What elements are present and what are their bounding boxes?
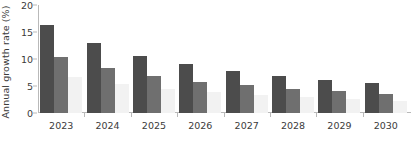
bar xyxy=(161,89,175,113)
x-tick-mark xyxy=(131,113,132,117)
y-tick-label: 20 xyxy=(21,0,33,11)
bar-group xyxy=(84,5,130,113)
bar xyxy=(133,56,147,113)
x-tick-mark xyxy=(316,113,317,117)
bar-group xyxy=(363,5,409,113)
bar xyxy=(300,97,314,113)
bar-group xyxy=(131,5,177,113)
bar xyxy=(207,92,221,113)
bar xyxy=(286,89,300,113)
x-tick-mark xyxy=(224,113,225,117)
bar xyxy=(115,84,129,113)
y-tick-mark xyxy=(33,32,37,33)
bar-group xyxy=(177,5,223,113)
bar-group xyxy=(270,5,316,113)
bar xyxy=(240,85,254,113)
x-tick-mark xyxy=(84,113,85,117)
bar xyxy=(318,80,332,113)
bar-groups xyxy=(38,5,409,113)
bar-chart: Annual growth rate (%) 05101520 20232024… xyxy=(0,0,413,146)
bar xyxy=(346,99,360,113)
plot-area: 05101520 xyxy=(38,5,409,113)
x-tick-mark xyxy=(270,113,271,117)
bar xyxy=(87,43,101,113)
y-tick-mark xyxy=(33,59,37,60)
x-tick-label: 2029 xyxy=(316,119,362,139)
bar-group xyxy=(316,5,362,113)
y-tick-label: 15 xyxy=(21,27,33,38)
bar xyxy=(272,76,286,113)
bar xyxy=(365,83,379,113)
x-tick-label: 2027 xyxy=(224,119,270,139)
bar xyxy=(332,91,346,113)
x-axis-labels: 20232024202520262027202820292030 xyxy=(38,119,409,139)
bar-group xyxy=(38,5,84,113)
y-axis-title: Annual growth rate (%) xyxy=(0,2,14,122)
bar xyxy=(179,64,193,113)
y-tick-mark xyxy=(33,86,37,87)
bar xyxy=(147,76,161,113)
x-tick-label: 2028 xyxy=(270,119,316,139)
bar xyxy=(226,71,240,113)
bar xyxy=(101,68,115,113)
x-tick-mark xyxy=(177,113,178,117)
bar-group xyxy=(224,5,270,113)
x-tick-mark xyxy=(363,113,364,117)
bar xyxy=(193,82,207,113)
x-tick-label: 2024 xyxy=(84,119,130,139)
x-tick-label: 2030 xyxy=(363,119,409,139)
bar xyxy=(68,77,82,113)
y-tick-mark xyxy=(33,113,37,114)
y-tick-label: 10 xyxy=(21,54,33,65)
x-tick-label: 2026 xyxy=(177,119,223,139)
bar xyxy=(54,57,68,113)
bar xyxy=(379,94,393,113)
bar xyxy=(40,25,54,113)
x-tick-label: 2025 xyxy=(131,119,177,139)
y-tick-mark xyxy=(33,5,37,6)
x-tick-label: 2023 xyxy=(38,119,84,139)
bar xyxy=(254,95,268,113)
bar xyxy=(393,101,407,113)
